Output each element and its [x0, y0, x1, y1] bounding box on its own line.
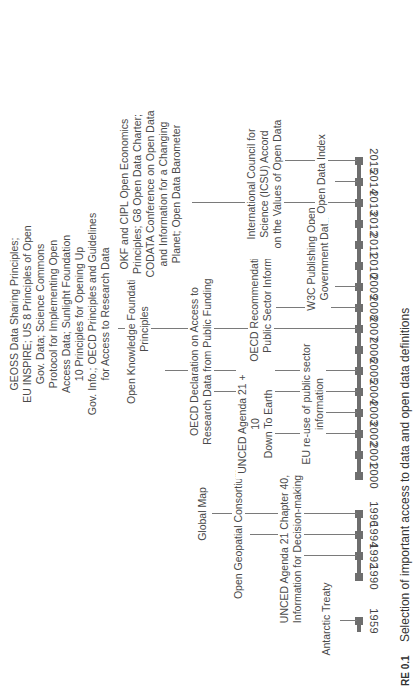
event-text: Open Geopatial Consortium — [232, 464, 245, 604]
connector-1992 — [295, 555, 357, 556]
tick-2005 — [355, 367, 363, 375]
tick-2007 — [355, 325, 363, 333]
tick-2006 — [355, 346, 363, 354]
tick-1992 — [355, 552, 363, 560]
event-text: and Information for a Changing — [157, 109, 170, 279]
year-label: 1959 — [368, 601, 380, 641]
event-text: Planet; Open Data Barometer — [170, 109, 183, 279]
event-okf-cipl-g8-codata: OKF and CIPL Open Economics Principles; … — [118, 109, 183, 279]
event-unced-agenda21-ch40: UNCED Agenda 21 Chapter 40, Information … — [278, 464, 304, 634]
tick-2014 — [355, 178, 363, 186]
event-text: 10 Principles for Opening Up — [73, 199, 86, 429]
connector-2014 — [335, 181, 357, 182]
event-text: Science (ICSU) Accord — [258, 109, 271, 259]
event-text: International Council for — [245, 109, 258, 259]
event-text: Access Data; Sunlight Foundation — [60, 199, 73, 429]
timeline-figure: 1959 1990 1992 1994 1996 2000 2001 2002 … — [0, 0, 417, 694]
year-label: 1996 — [368, 494, 380, 534]
event-text: Gov. Info.; OECD Principles and Guidelin… — [86, 199, 99, 429]
tick-2010 — [355, 262, 363, 270]
event-text: Down To Earth — [262, 369, 275, 479]
connector-2013-link — [192, 202, 193, 203]
figure-caption-text: Selection of important access to data an… — [398, 308, 412, 642]
year-label: 2015 — [368, 141, 380, 181]
event-unced-agenda21-plus10: UNCED Agenda 21 + 10 Down To Earth — [236, 369, 275, 479]
event-open-geospatial-consortium: Open Geopatial Consortium — [232, 464, 245, 604]
connector-2007 — [118, 328, 357, 329]
event-text: Antarctic Treaty — [320, 564, 333, 674]
event-eu-reuse-psi: EU re-use of public sector information — [300, 339, 326, 469]
tick-2004 — [355, 388, 363, 396]
event-text: UNCED Agenda 21 Chapter 40, — [278, 464, 291, 634]
event-icsu-accord: International Council for Science (ICSU)… — [245, 109, 284, 259]
connector-2003 — [325, 412, 357, 413]
event-antarctic-treaty: Antarctic Treaty — [320, 564, 333, 674]
event-text: Gov. Data; Science Commons — [34, 199, 47, 429]
figure-number: RE 0.1 — [400, 655, 411, 686]
connector-2009 — [335, 286, 357, 287]
tick-2009 — [355, 283, 363, 291]
event-text: on the Values of Open Data — [271, 109, 284, 259]
tick-2013 — [355, 199, 363, 207]
event-text: OKF and CIPL Open Economics — [118, 109, 131, 279]
tick-2003 — [355, 409, 363, 417]
tick-2000 — [355, 472, 363, 480]
tick-1959 — [355, 617, 363, 625]
event-text: EU INSPIRE; US 8 Principles of Open — [21, 199, 34, 429]
event-text: Information for Decision-making — [291, 464, 304, 634]
event-text: information — [313, 339, 326, 469]
event-text: EU re-use of public sector — [300, 339, 313, 469]
tick-2002 — [355, 430, 363, 438]
tick-1994 — [355, 531, 363, 539]
tick-2001 — [355, 451, 363, 459]
axis-segment-1990s — [357, 511, 361, 579]
figure-caption: RE 0.1 Selection of important access to … — [398, 308, 412, 686]
tick-2015 — [355, 157, 363, 165]
tick-1990 — [355, 573, 363, 581]
event-text: GEOSS Data Sharing Principles; — [8, 199, 21, 429]
connector-1959 — [340, 620, 357, 621]
event-text: Protocol for Implementing Open — [47, 199, 60, 429]
event-text: Principles; G8 Open Data Charter; — [131, 109, 144, 279]
tick-2012 — [355, 220, 363, 228]
event-text: CODATA Conference on Open Data — [144, 109, 157, 279]
event-global-map: Global Map — [196, 474, 209, 554]
event-geoss-and-others: GEOSS Data Sharing Principles; EU INSPIR… — [8, 199, 112, 429]
event-text: Global Map — [196, 474, 209, 554]
event-text: Open Data Index — [315, 124, 328, 224]
tick-2011 — [355, 241, 363, 249]
tick-2008 — [355, 304, 363, 312]
event-text: UNCED Agenda 21 + 10 — [236, 369, 262, 479]
event-text: OECD Declaration on Access to — [188, 274, 201, 449]
event-text: Research Data from Public Funding — [201, 274, 214, 449]
event-oecd-declaration: OECD Declaration on Access to Research D… — [188, 274, 214, 449]
connector-2004 — [212, 391, 357, 392]
event-text: for Access to Research Data — [99, 199, 112, 429]
event-open-data-index: Open Data Index — [315, 124, 328, 224]
tick-1996 — [355, 510, 363, 518]
